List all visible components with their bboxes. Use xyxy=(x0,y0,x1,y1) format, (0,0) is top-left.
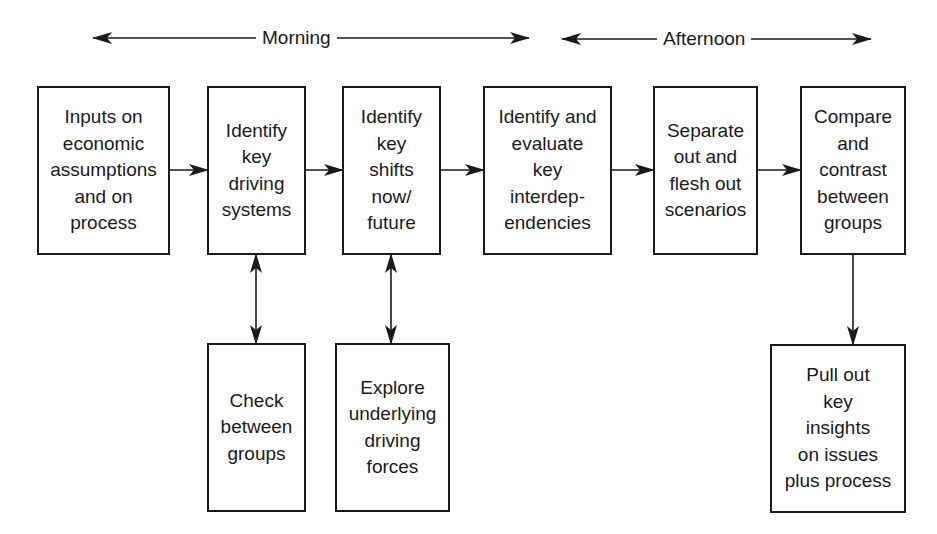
node-scenarios: Separate out and flesh out scenarios xyxy=(653,86,758,255)
node-compare: Compare and contrast between groups xyxy=(800,86,906,255)
node-insights-text: Pull out key insights on issues plus pro… xyxy=(785,362,892,495)
node-interdependencies-text: Identify and evaluate key interdep- ende… xyxy=(498,104,596,237)
node-interdependencies: Identify and evaluate key interdep- ende… xyxy=(483,86,612,255)
morning-label: Morning xyxy=(256,27,337,49)
node-scenarios-text: Separate out and flesh out scenarios xyxy=(665,118,746,224)
node-driving-systems-text: Identify key driving systems xyxy=(222,118,292,224)
node-check-groups-text: Check between groups xyxy=(221,388,293,468)
node-driving-forces-text: Explore underlying driving forces xyxy=(349,375,437,481)
node-driving-forces: Explore underlying driving forces xyxy=(335,343,450,512)
node-compare-text: Compare and contrast between groups xyxy=(814,104,892,237)
node-inputs-text: Inputs on economic assumptions and on pr… xyxy=(50,104,157,237)
node-driving-systems: Identify key driving systems xyxy=(207,86,306,255)
node-inputs: Inputs on economic assumptions and on pr… xyxy=(37,86,170,255)
afternoon-label: Afternoon xyxy=(657,28,751,50)
node-key-shifts: Identify key shifts now/ future xyxy=(342,86,441,255)
node-key-shifts-text: Identify key shifts now/ future xyxy=(361,104,422,237)
node-insights: Pull out key insights on issues plus pro… xyxy=(770,344,906,513)
node-check-groups: Check between groups xyxy=(207,343,306,512)
